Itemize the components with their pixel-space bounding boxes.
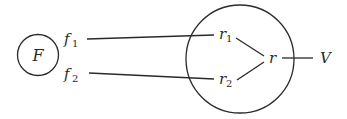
input-f1-base: f	[63, 30, 72, 48]
edge-r1-r	[236, 38, 264, 56]
input-f1-subscript: 1	[72, 38, 78, 49]
diagram-canvas: F f 1 f 2 r 1 r 2 r V	[0, 0, 347, 119]
edge-r2-r	[237, 62, 264, 80]
source-node-f: F	[18, 35, 59, 76]
edge-f2-r2	[89, 73, 214, 79]
input-label-f1: f 1	[63, 30, 78, 49]
process-circle	[186, 5, 294, 113]
input-f2-base: f	[63, 65, 72, 83]
internal-output-label: r	[269, 49, 277, 67]
source-label: F	[31, 46, 44, 65]
edge-f1-r1	[87, 35, 214, 39]
internal-r1-subscript: 1	[226, 33, 232, 44]
internal-r2-subscript: 2	[226, 78, 232, 89]
input-label-f2: f 2	[63, 65, 78, 84]
input-f2-subscript: 2	[72, 73, 78, 84]
process-node: r 1 r 2 r	[186, 5, 294, 113]
output-label: V	[320, 49, 333, 67]
